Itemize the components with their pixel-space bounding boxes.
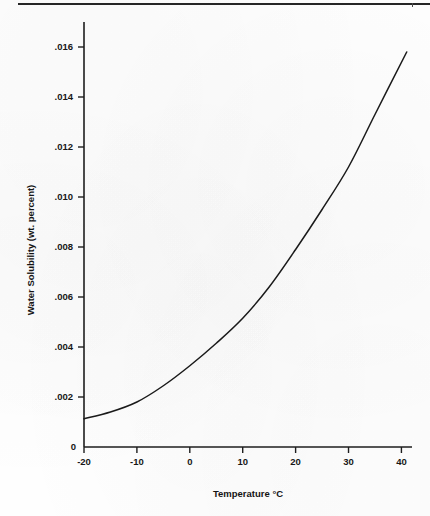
- y-axis-tick-label: .014: [55, 91, 74, 102]
- x-axis-tick-label: -10: [130, 456, 144, 467]
- solubility-curve: [84, 52, 407, 419]
- y-axis-title: Water Solubility (wt. percent): [25, 185, 36, 316]
- y-axis-origin-label: 0: [71, 441, 76, 452]
- y-axis-tick-label: .010: [55, 191, 74, 202]
- x-axis-title: Temperature °C: [213, 488, 283, 499]
- x-axis-tick-label: 10: [237, 456, 248, 467]
- page-canvas: .002.004.006.008.010.012.014.016 0 -20-1…: [0, 0, 430, 516]
- x-axis-tick-label: -20: [77, 456, 91, 467]
- x-axis-tick-label: 0: [187, 456, 192, 467]
- y-axis-tick-label: .004: [55, 341, 74, 352]
- y-axis-tick-label: .016: [55, 41, 74, 52]
- solubility-vs-temperature-chart: .002.004.006.008.010.012.014.016 0 -20-1…: [0, 0, 430, 516]
- y-axis-tick-label: .012: [55, 141, 74, 152]
- y-axis-tick-label: .002: [55, 391, 74, 402]
- x-axis-tick-label: 40: [396, 456, 407, 467]
- x-axis-tick-label: 20: [290, 456, 301, 467]
- y-axis-tick-group: .002.004.006.008.010.012.014.016: [55, 41, 85, 402]
- y-axis-tick-label: .006: [55, 291, 74, 302]
- chart-svg: .002.004.006.008.010.012.014.016 0 -20-1…: [0, 0, 430, 516]
- y-axis-tick-label: .008: [55, 241, 74, 252]
- x-axis-tick-label: 30: [343, 456, 354, 467]
- x-axis-tick-group: -20-10010203040: [77, 447, 407, 467]
